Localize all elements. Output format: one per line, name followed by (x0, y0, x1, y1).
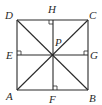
label-b: B (89, 92, 96, 104)
label-d: D (4, 9, 13, 21)
label-a: A (5, 90, 13, 102)
label-e: E (5, 49, 13, 61)
label-g: G (90, 49, 98, 61)
label-f: F (48, 93, 56, 105)
diagram-canvas: D H C P E G A F B (0, 0, 102, 105)
right-angle-mark-f (53, 86, 57, 90)
label-p: P (54, 36, 62, 48)
right-angle-mark-g (84, 51, 88, 55)
label-c: C (89, 9, 97, 21)
right-angle-mark-e (17, 51, 21, 55)
label-h: H (47, 3, 57, 15)
square-diagram: D H C P E G A F B (0, 0, 102, 105)
right-angle-mark-h (49, 20, 53, 24)
